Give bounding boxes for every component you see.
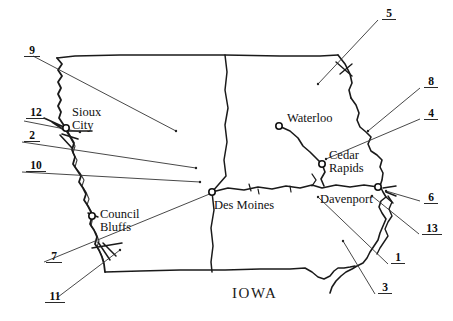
cedar-rapids-tributary	[312, 174, 316, 186]
callout-number-4[interactable]: 4	[424, 107, 438, 120]
callout-number-underline	[424, 87, 438, 88]
city-dot[interactable]	[375, 184, 381, 190]
callout-leader-tip	[317, 83, 319, 85]
callout-number-11[interactable]: 11	[45, 290, 65, 303]
iowa-map-figure: SiouxCityCouncilBluffsDes MoinesWaterloo…	[0, 0, 453, 321]
callout-leader-line	[368, 88, 420, 131]
city-label-line: Des Moines	[214, 199, 274, 212]
city-label: CedarRapids	[329, 149, 364, 175]
callout-leader-tip	[317, 196, 319, 198]
callout-number-8[interactable]: 8	[424, 75, 438, 88]
callout-number-underline	[46, 262, 62, 263]
callout-number-7[interactable]: 7	[46, 250, 62, 263]
callout-number-10[interactable]: 10	[26, 159, 46, 172]
callout-number-13[interactable]: 13	[422, 222, 442, 235]
callout-leader-tip	[195, 167, 197, 169]
callout-number-5[interactable]: 5	[382, 7, 396, 20]
callout-number-text: 3	[382, 281, 388, 293]
interior-river-des-moines-to-davenport	[212, 185, 378, 192]
city-label-line: Waterloo	[287, 112, 333, 125]
callout-number-text: 13	[426, 222, 438, 234]
callout-leader-line	[22, 142, 196, 168]
northeast-corner	[338, 55, 352, 98]
city-label: CouncilBluffs	[100, 208, 140, 234]
cedar-river-system	[279, 126, 325, 186]
city-label-line: City	[72, 119, 101, 132]
callout-leader-line	[22, 172, 200, 182]
city-label: Davenport	[320, 193, 373, 206]
callout-leader-line	[58, 250, 120, 297]
callout-number-text: 8	[428, 75, 434, 87]
callout-leader-tip	[367, 130, 369, 132]
city-label: Des Moines	[214, 199, 274, 212]
callout-number-2[interactable]: 2	[24, 129, 40, 142]
callout-number-text: 1	[395, 251, 401, 263]
city-label: Waterloo	[287, 112, 333, 125]
city-label-line: Davenport	[320, 193, 373, 206]
callout-number-underline	[24, 141, 40, 142]
callout-leader-line	[318, 197, 388, 264]
callout-number-text: 2	[29, 129, 35, 141]
callout-number-underline	[378, 293, 392, 294]
northeast-crossing-lines	[336, 62, 352, 76]
callout-number-text: 7	[51, 250, 57, 262]
callout-number-underline	[424, 119, 438, 120]
callout-number-3[interactable]: 3	[378, 281, 392, 294]
city-dot[interactable]	[63, 125, 69, 131]
callout-leader-tip	[385, 190, 387, 192]
callout-number-text: 10	[30, 159, 42, 171]
callout-leader-tip	[325, 158, 327, 160]
callout-number-text: 12	[30, 106, 42, 118]
map-linework	[0, 0, 453, 321]
callout-number-1[interactable]: 1	[391, 251, 405, 264]
callout-number-underline	[45, 302, 65, 303]
city-dot[interactable]	[319, 161, 325, 167]
city-dot[interactable]	[89, 213, 95, 219]
city-dot[interactable]	[209, 189, 215, 195]
callout-number-6[interactable]: 6	[424, 191, 438, 204]
north-border	[57, 55, 338, 58]
callout-number-text: 5	[386, 7, 392, 19]
city-label: SiouxCity	[72, 106, 101, 132]
callout-leader-tip	[342, 240, 344, 242]
callout-number-underline	[424, 203, 438, 204]
callout-leader-tip	[175, 130, 177, 132]
city-label-line: Rapids	[329, 162, 364, 175]
callout-leader-line	[318, 20, 378, 84]
central-river-vertical	[211, 55, 228, 272]
callout-number-text: 6	[428, 191, 434, 203]
callout-number-underline	[26, 171, 46, 172]
state-name-label: IOWA	[232, 285, 278, 302]
callout-leader-tip	[199, 181, 201, 183]
callout-number-underline	[24, 56, 40, 57]
callout-number-underline	[26, 118, 46, 119]
callout-number-underline	[391, 263, 405, 264]
callout-number-underline	[382, 19, 396, 20]
city-dot[interactable]	[276, 123, 282, 129]
callout-number-12[interactable]: 12	[26, 106, 46, 119]
callout-leader-line	[372, 196, 419, 234]
callout-number-text: 9	[29, 44, 35, 56]
callout-number-text: 11	[50, 290, 61, 302]
callout-leader-line	[33, 56, 176, 131]
callout-leader-tip	[119, 249, 121, 251]
city-label-line: Bluffs	[100, 221, 140, 234]
callout-number-text: 4	[428, 107, 434, 119]
callout-number-underline	[422, 234, 442, 235]
callout-number-9[interactable]: 9	[24, 44, 40, 57]
south-border	[105, 266, 355, 279]
